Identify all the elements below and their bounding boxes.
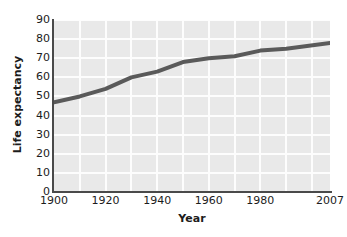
y-axis-title: Life expectancy [11,40,24,170]
y-tick-label: 90 [4,14,50,25]
x-axis-title: Year [54,212,330,225]
x-axis-line [52,191,332,193]
series-path [54,43,330,102]
plot-area [54,20,330,192]
y-axis-line [52,19,54,193]
x-tick-label: 2007 [300,195,347,207]
data-series-line [54,20,330,192]
x-tick-label: 1980 [230,195,290,207]
line-chart: 0102030405060708090 19001920194019601980… [0,0,347,237]
